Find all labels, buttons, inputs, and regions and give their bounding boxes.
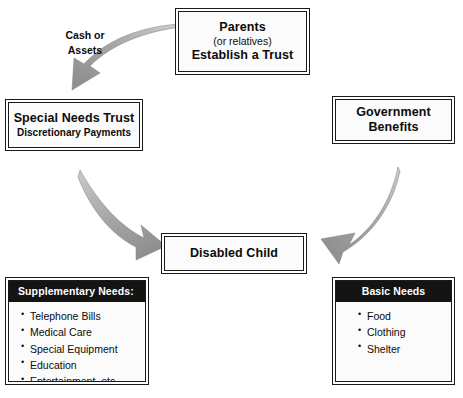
node-special-needs-trust[interactable]: Special Needs Trust Discretionary Paymen… — [5, 99, 143, 151]
panel-supplementary-needs-header: Supplementary Needs: — [9, 281, 145, 302]
list-item: Education — [21, 357, 145, 373]
list-item: Telephone Bills — [21, 308, 145, 324]
list-item: Medical Care — [21, 324, 145, 340]
arrow-trust-to-child — [78, 168, 170, 266]
node-special-needs-trust-inner: Special Needs Trust Discretionary Paymen… — [8, 102, 140, 148]
node-government-benefits-line1: Government — [356, 105, 431, 120]
panel-basic-needs-header: Basic Needs — [336, 281, 451, 302]
annotation-cash-or-assets: Cash or Assets — [47, 28, 123, 58]
node-parents-line3: Establish a Trust — [192, 48, 294, 63]
list-item: Clothing — [358, 324, 451, 340]
panel-supplementary-needs-inner: Supplementary Needs: Telephone Bills Med… — [8, 280, 146, 382]
node-government-benefits[interactable]: Government Benefits — [332, 96, 455, 144]
panel-basic-needs[interactable]: Basic Needs Food Clothing Shelter — [332, 277, 455, 385]
node-parents-line1: Parents — [219, 20, 266, 35]
node-disabled-child-inner: Disabled Child — [164, 236, 304, 271]
node-special-needs-trust-line1: Special Needs Trust — [14, 111, 135, 126]
list-item: Special Equipment — [21, 341, 145, 357]
panel-basic-needs-inner: Basic Needs Food Clothing Shelter — [335, 280, 452, 382]
node-parents[interactable]: Parents (or relatives) Establish a Trust — [175, 8, 310, 75]
panel-supplementary-needs-list: Telephone Bills Medical Care Special Equ… — [9, 302, 145, 382]
list-item: Food — [358, 308, 451, 324]
node-government-benefits-inner: Government Benefits — [335, 99, 452, 141]
panel-basic-needs-list: Food Clothing Shelter — [336, 302, 451, 381]
node-government-benefits-line2: Benefits — [368, 120, 418, 135]
node-parents-line2: (or relatives) — [213, 35, 271, 48]
node-disabled-child-line1: Disabled Child — [190, 246, 278, 261]
arrow-benefits-to-child — [315, 165, 400, 265]
node-parents-inner: Parents (or relatives) Establish a Trust — [178, 11, 307, 72]
list-item: Entertainment, etc. — [21, 373, 145, 382]
list-item: Shelter — [358, 341, 451, 357]
node-disabled-child[interactable]: Disabled Child — [161, 233, 307, 274]
panel-supplementary-needs[interactable]: Supplementary Needs: Telephone Bills Med… — [5, 277, 149, 385]
node-special-needs-trust-line2: Discretionary Payments — [17, 127, 131, 139]
diagram-canvas: Cash or Assets Parents (or relatives) Es… — [0, 0, 463, 398]
